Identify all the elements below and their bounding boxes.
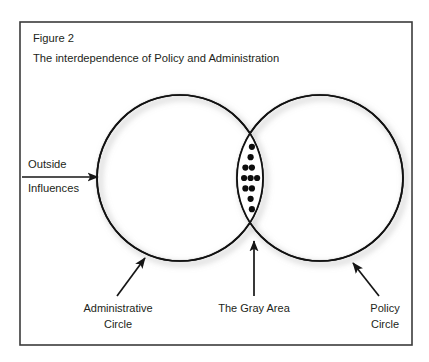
gray-area-dot	[241, 175, 247, 181]
administrative-circle-label-line2: Circle	[104, 318, 132, 330]
figure-container: Figure 2 The interdependence of Policy a…	[0, 0, 429, 362]
figure-title: The interdependence of Policy and Admini…	[33, 52, 279, 64]
gray-area-dot	[249, 206, 255, 212]
gray-area-dot	[242, 185, 248, 191]
outside-influences-label-line1: Outside	[28, 158, 67, 170]
gray-area-label: The Gray Area	[218, 302, 290, 314]
administrative-circle-label-line1: Administrative	[83, 302, 152, 314]
gray-area-dot	[248, 154, 254, 160]
gray-area-dot	[248, 175, 254, 181]
figure-number: Figure 2	[33, 32, 74, 44]
gray-area-dot	[249, 165, 255, 171]
gray-area-dot	[242, 165, 248, 171]
policy-circle-label-line1: Policy	[370, 302, 400, 314]
outside-influences-label-line2: Influences	[28, 182, 79, 194]
gray-area-dot	[249, 185, 255, 191]
gray-area-dot	[249, 144, 255, 150]
gray-area-dot	[248, 196, 254, 202]
policy-circle-label-line2: Circle	[371, 318, 399, 330]
figure-canvas: Figure 2 The interdependence of Policy a…	[0, 0, 429, 362]
gray-area-dot	[254, 175, 260, 181]
